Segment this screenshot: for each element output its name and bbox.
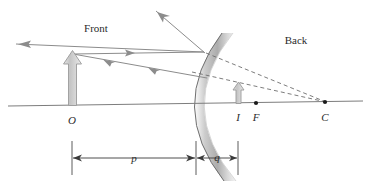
incident-parallel-ray [73,52,204,54]
focal-point-dot [254,101,258,105]
label-front: Front [84,22,108,34]
incident-oblique-ray [73,54,207,78]
label-focal-point-f: F [252,111,260,123]
optical-axis [8,101,363,106]
image-arrow [233,82,244,104]
label-distance-q: q [214,151,220,163]
label-center-point-c: C [321,111,329,123]
ray-bundle [16,11,207,78]
label-distance-p: p [130,152,137,164]
dashed-line-ray-to-center [192,72,326,102]
center-of-curvature-dot [323,100,327,104]
label-image-point-i: I [235,111,241,123]
object-arrow [64,51,82,106]
label-object-point-o: O [68,114,76,126]
label-back: Back [285,34,308,46]
optics-ray-diagram: Front Back O I F C p q [0,0,371,188]
dashed-line-mirror-to-center [206,53,326,102]
reflected-ray-upper-left [16,44,204,52]
